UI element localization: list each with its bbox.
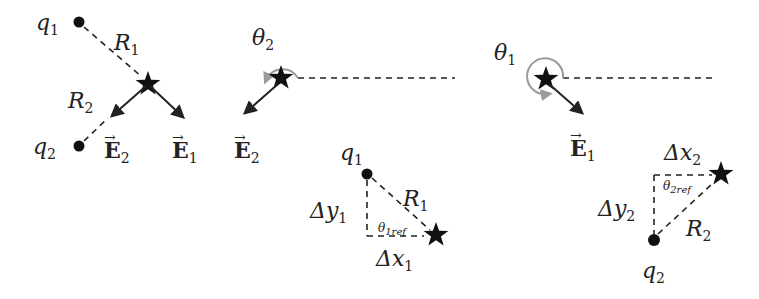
observation-point-star-icon [424, 222, 449, 246]
label-e1: E1 [570, 135, 596, 164]
label-e2: E2 [104, 137, 130, 166]
label-q1: q1 [340, 140, 363, 168]
observation-point-star-icon [269, 65, 294, 89]
charge-q2-dot [648, 234, 660, 246]
label-r2: R2 [67, 88, 94, 116]
charge-q2-dot [74, 141, 85, 152]
label-r2: R2 [685, 216, 712, 244]
label-dx2: Δx2 [663, 140, 701, 168]
panel-c: q1 R1 Δy1 θ1ref Δx1 [309, 140, 448, 274]
label-q2: q2 [642, 258, 665, 286]
label-q2: q2 [33, 134, 56, 162]
label-r1: R1 [113, 30, 140, 58]
field-e2-vector [112, 86, 146, 116]
label-e2: E2 [234, 137, 260, 166]
label-r1: R1 [402, 186, 429, 214]
label-theta2: θ2 [252, 25, 274, 53]
charge-q1-dot [362, 169, 373, 180]
label-dy2: Δy2 [597, 196, 635, 224]
electric-field-diagram: q1 R1 R2 q2 → E2 → E1 θ2 → E2 q1 R1 Δy1 … [0, 0, 759, 299]
label-theta1: θ1 [494, 40, 516, 68]
field-e1-vector [549, 84, 582, 113]
panel-e: Δx2 θ2ref Δy2 R2 q2 [597, 140, 733, 286]
panel-a: q1 R1 R2 q2 → E2 → E1 [33, 10, 198, 166]
label-dx1: Δx1 [375, 246, 413, 274]
charge-q1-dot [74, 17, 85, 28]
observation-point-star-icon [709, 161, 734, 185]
label-theta1ref: θ1ref [378, 221, 408, 237]
label-dy1: Δy1 [309, 198, 347, 226]
field-e1-vector [150, 86, 183, 117]
label-q1: q1 [36, 10, 59, 38]
label-theta2ref: θ2ref [663, 179, 693, 195]
label-e1: E1 [172, 137, 198, 166]
observation-point-star-icon [534, 66, 559, 90]
field-e2-vector [245, 84, 278, 113]
